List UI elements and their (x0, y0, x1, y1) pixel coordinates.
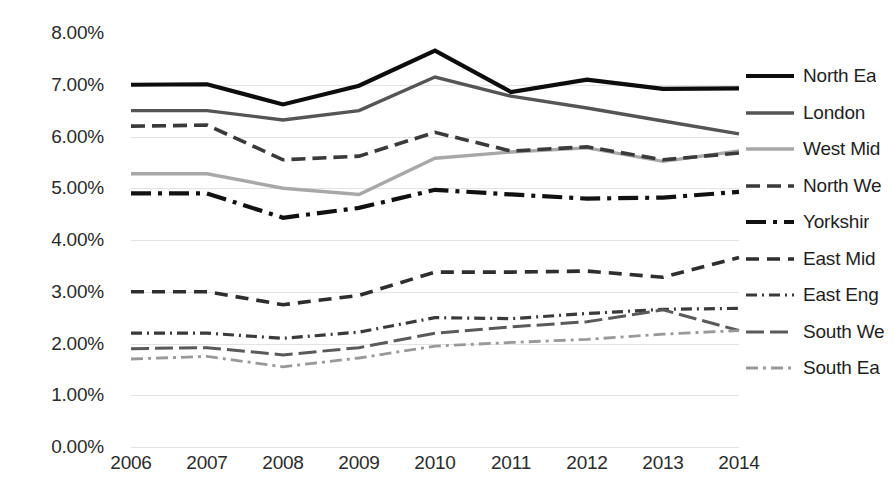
legend-line-swatch (746, 106, 794, 120)
legend-line-swatch (746, 142, 794, 156)
x-axis-tick-label: 2011 (491, 452, 531, 474)
x-axis-tick-label: 2012 (566, 452, 607, 474)
legend-line-swatch (746, 215, 794, 229)
legend: North EaLondonWest MidNorth WeYorkshirEa… (746, 64, 895, 394)
x-axis-tick-label: 2013 (642, 452, 683, 474)
y-axis-tick-label: 4.00% (51, 229, 104, 251)
y-axis-tick-label: 8.00% (51, 22, 104, 44)
y-axis-tick-label: 3.00% (51, 281, 104, 303)
gridline (131, 447, 739, 448)
legend-item[interactable]: South Ea (746, 356, 895, 380)
legend-line-swatch (746, 325, 794, 339)
y-axis-tick-label: 0.00% (51, 436, 104, 458)
legend-line-swatch (746, 179, 794, 193)
x-axis-tick-label: 2014 (718, 452, 759, 474)
y-axis-tick-label: 6.00% (51, 126, 104, 148)
x-axis-tick-label: 2007 (186, 452, 227, 474)
legend-item[interactable]: North Ea (746, 64, 895, 88)
legend-line-swatch (746, 252, 794, 266)
y-axis-tick-label: 2.00% (51, 333, 104, 355)
legend-item-label: North Ea (803, 65, 876, 87)
series-line-north-we (131, 125, 739, 160)
legend-item[interactable]: South We (746, 320, 895, 344)
plot-area (131, 33, 739, 447)
x-axis-tick-label: 2006 (110, 452, 151, 474)
legend-item-label: West Mid (803, 138, 880, 160)
legend-item-label: East Mid (803, 248, 875, 270)
legend-item-label: Yorkshir (803, 211, 869, 233)
y-axis-tick-label: 7.00% (51, 74, 104, 96)
x-axis: 200620072008200920102011201220132014 (131, 452, 739, 486)
legend-item[interactable]: West Mid (746, 137, 895, 161)
legend-item-label: London (803, 102, 865, 124)
legend-item[interactable]: North We (746, 174, 895, 198)
y-axis-tick-label: 5.00% (51, 177, 104, 199)
series-lines (131, 33, 739, 447)
series-line-yorkshir (131, 190, 739, 218)
series-line-west-mid (131, 148, 739, 195)
legend-item-label: East Eng (803, 284, 879, 306)
y-axis: 8.00%7.00%6.00%5.00%4.00%3.00%2.00%1.00%… (0, 0, 118, 502)
x-axis-tick-label: 2009 (338, 452, 379, 474)
legend-item[interactable]: Yorkshir (746, 210, 895, 234)
legend-item[interactable]: East Eng (746, 283, 895, 307)
series-line-south-ea (131, 331, 739, 367)
legend-item-label: South We (803, 321, 885, 343)
y-axis-tick-label: 1.00% (51, 384, 104, 406)
series-line-east-mid (131, 258, 739, 305)
x-axis-tick-label: 2008 (262, 452, 303, 474)
legend-item[interactable]: London (746, 101, 895, 125)
x-axis-tick-label: 2010 (414, 452, 455, 474)
legend-line-swatch (746, 288, 794, 302)
legend-line-swatch (746, 69, 794, 83)
legend-line-swatch (746, 361, 794, 375)
line-chart: 8.00%7.00%6.00%5.00%4.00%3.00%2.00%1.00%… (0, 0, 895, 502)
legend-item-label: South Ea (803, 357, 880, 379)
legend-item[interactable]: East Mid (746, 247, 895, 271)
legend-item-label: North We (803, 175, 881, 197)
